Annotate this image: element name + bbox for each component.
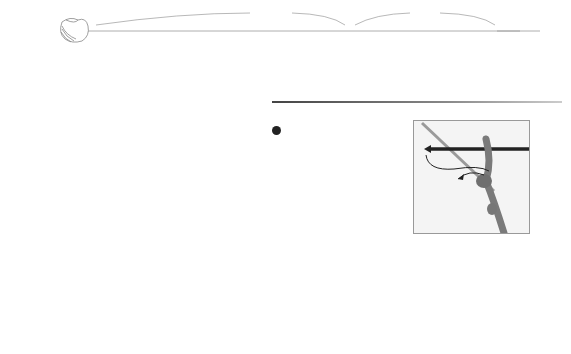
tip-step [272, 125, 412, 141]
yarn-ball-icon [61, 18, 89, 42]
wing-bracket-right [292, 13, 345, 25]
wing-bracket [96, 13, 250, 25]
step-number-badge [272, 126, 281, 135]
base-bracket-right [440, 13, 495, 25]
tip-photo [413, 120, 530, 234]
base-bracket-left [355, 13, 410, 25]
tip-divider [272, 101, 562, 103]
tip-section [272, 98, 562, 103]
hook-photo-illustration [414, 121, 529, 233]
